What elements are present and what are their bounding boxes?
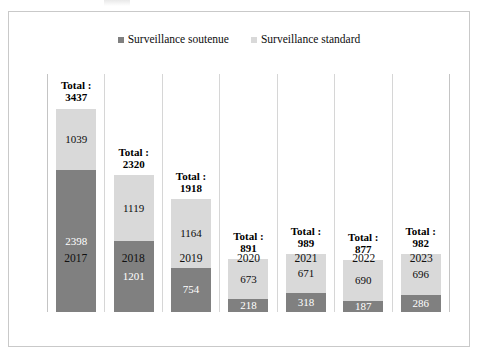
bar-group-container: Total : 3437 1039 2398 Total : 2320 1119… bbox=[48, 74, 449, 312]
plot-area: Total : 3437 1039 2398 Total : 2320 1119… bbox=[47, 74, 450, 312]
bar-segment-standard-2017[interactable]: 1039 bbox=[56, 109, 96, 170]
total-label-2021: Total : 989 bbox=[278, 225, 334, 249]
legend-item-surveillance-soutenue[interactable]: Surveillance soutenue bbox=[118, 34, 229, 46]
legend-swatch-standard-icon bbox=[251, 37, 257, 43]
total-label-2018: Total : 2320 bbox=[105, 146, 161, 170]
stacked-bar-2017[interactable]: 1039 2398 bbox=[56, 109, 96, 312]
bar-segment-soutenue-2020[interactable]: 218 bbox=[228, 299, 268, 312]
x-tick-2019: 2019 bbox=[162, 252, 220, 264]
cropped-text-artifact bbox=[104, 0, 130, 6]
bar-segment-soutenue-2021[interactable]: 318 bbox=[286, 293, 326, 312]
x-axis-tick-labels: 2017 2018 2019 2020 2021 2022 2023 bbox=[47, 252, 450, 264]
bar-segment-standard-2018[interactable]: 1119 bbox=[114, 175, 154, 241]
x-tick-2022: 2022 bbox=[335, 252, 393, 264]
bar-column-2019[interactable]: Total : 1918 1164 754 bbox=[163, 74, 220, 312]
legend-label-standard: Surveillance standard bbox=[261, 34, 360, 46]
chart-frame: Surveillance soutenue Surveillance stand… bbox=[8, 11, 470, 347]
bar-segment-soutenue-2023[interactable]: 286 bbox=[401, 295, 441, 312]
bar-column-2023[interactable]: Total : 982 696 286 bbox=[393, 74, 449, 312]
x-tick-2020: 2020 bbox=[220, 252, 278, 264]
bar-column-2018[interactable]: Total : 2320 1119 1201 bbox=[105, 74, 162, 312]
stacked-bar-2022[interactable]: 690 187 bbox=[343, 260, 383, 312]
legend-item-surveillance-standard[interactable]: Surveillance standard bbox=[251, 34, 360, 46]
bar-column-2021[interactable]: Total : 989 671 318 bbox=[278, 74, 335, 312]
bar-segment-soutenue-2019[interactable]: 754 bbox=[171, 268, 211, 312]
bar-column-2022[interactable]: Total : 877 690 187 bbox=[335, 74, 392, 312]
total-label-2023: Total : 982 bbox=[393, 225, 449, 249]
x-tick-2018: 2018 bbox=[105, 252, 163, 264]
bar-segment-standard-2020[interactable]: 673 bbox=[228, 259, 268, 299]
total-label-2019: Total : 1918 bbox=[163, 170, 219, 194]
total-label-2017: Total : 3437 bbox=[48, 79, 104, 103]
total-label-2020: Total : 891 bbox=[220, 230, 276, 254]
bar-segment-standard-2022[interactable]: 690 bbox=[343, 260, 383, 301]
bar-segment-soutenue-2022[interactable]: 187 bbox=[343, 301, 383, 312]
x-tick-2023: 2023 bbox=[392, 252, 450, 264]
legend-swatch-soutenue-icon bbox=[118, 37, 124, 43]
bar-column-2017[interactable]: Total : 3437 1039 2398 bbox=[48, 74, 105, 312]
x-tick-2017: 2017 bbox=[47, 252, 105, 264]
chart-legend: Surveillance soutenue Surveillance stand… bbox=[9, 34, 469, 46]
x-tick-2021: 2021 bbox=[277, 252, 335, 264]
bar-column-2020[interactable]: Total : 891 673 218 bbox=[220, 74, 277, 312]
stacked-bar-2020[interactable]: 673 218 bbox=[228, 259, 268, 312]
stacked-bar-2018[interactable]: 1119 1201 bbox=[114, 175, 154, 312]
bar-segment-soutenue-2017[interactable]: 2398 bbox=[56, 170, 96, 312]
legend-label-soutenue: Surveillance soutenue bbox=[128, 34, 229, 46]
